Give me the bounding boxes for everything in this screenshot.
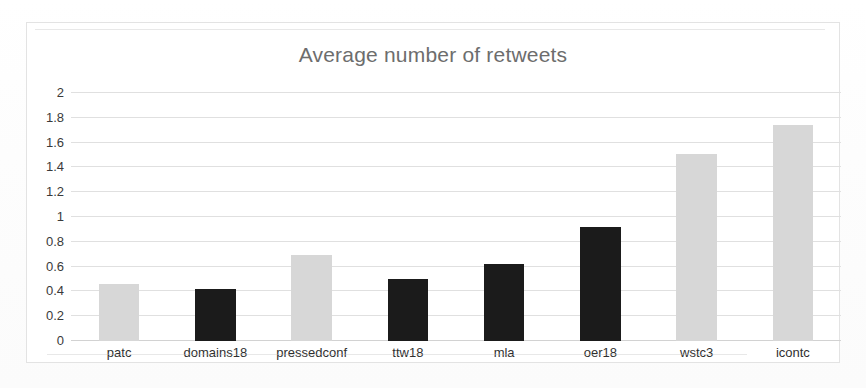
bar-slot [360, 93, 456, 341]
x-axis-category-label: domains18 [167, 345, 263, 360]
scan-streak [35, 29, 825, 30]
x-axis-category-label: pressedconf [264, 345, 360, 360]
bar-slot [552, 93, 648, 341]
bar-slot [745, 93, 841, 341]
y-axis-tick-label: 1 [57, 209, 64, 224]
y-axis-tick-label: 1.4 [46, 159, 64, 174]
bar [676, 154, 716, 341]
x-axis-category-label: oer18 [552, 345, 648, 360]
bar-series [71, 93, 841, 341]
y-axis-tick-label: 0 [57, 333, 64, 348]
y-axis-tick-label: 2 [57, 85, 64, 100]
bar [99, 284, 139, 341]
bar-slot [71, 93, 167, 341]
bar-slot [167, 93, 263, 341]
bar [388, 279, 428, 341]
y-axis-tick-label: 0.4 [46, 283, 64, 298]
y-axis-tick-label: 0.8 [46, 233, 64, 248]
x-axis-labels: patcdomains18pressedconfttw18mlaoer18wst… [71, 345, 841, 360]
bar-slot [649, 93, 745, 341]
chart-frame: Average number of retweets 21.81.61.41.2… [26, 22, 840, 363]
y-axis-tick-label: 0.2 [46, 308, 64, 323]
y-axis-tick-label: 0.6 [46, 258, 64, 273]
x-axis-category-label: ttw18 [360, 345, 456, 360]
bar [580, 227, 620, 341]
y-axis-tick-label: 1.2 [46, 184, 64, 199]
bar [773, 125, 813, 341]
bar [291, 255, 331, 341]
chart-title: Average number of retweets [27, 43, 839, 67]
x-axis-category-label: wstc3 [649, 345, 745, 360]
bar [484, 264, 524, 341]
bar [195, 289, 235, 341]
bar-slot [264, 93, 360, 341]
x-axis-category-label: patc [71, 345, 167, 360]
x-axis-category-label: mla [456, 345, 552, 360]
y-axis-tick-label: 1.6 [46, 134, 64, 149]
bar-slot [456, 93, 552, 341]
x-axis-category-label: icontc [745, 345, 841, 360]
y-axis-tick-label: 1.8 [46, 109, 64, 124]
plot-area: 21.81.61.41.210.80.60.40.20 [71, 93, 841, 341]
